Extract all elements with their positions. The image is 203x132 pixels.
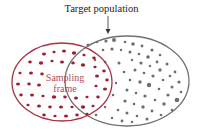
arrow-head-icon	[106, 29, 111, 34]
population-dots	[87, 38, 183, 123]
sampling-frame-label-line2: frame	[40, 83, 90, 94]
sampling-frame-label-line1: Sampling	[40, 72, 90, 83]
sampling-frame-label: Sampling frame	[40, 72, 90, 94]
venn-diagram	[0, 0, 203, 132]
